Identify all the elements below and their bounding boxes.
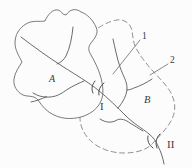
watershed-diagram: A B 1 2 I II [0,0,192,168]
callout-2-leader [150,64,168,75]
tributary-b-stem [113,39,127,108]
callout-2-label: 2 [170,55,175,65]
region-b-label: B [144,94,151,105]
region-a-label: A [48,73,56,84]
diagram-svg: A B 1 2 I II [0,0,192,168]
tributary-b-branch [127,79,152,90]
callout-1-label: 1 [142,31,147,41]
section-1-label: I [100,100,104,112]
section-2-label: II [167,138,175,150]
